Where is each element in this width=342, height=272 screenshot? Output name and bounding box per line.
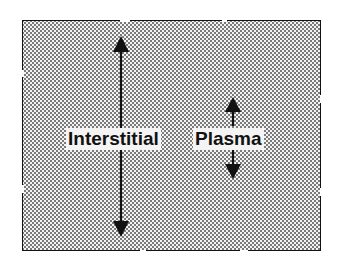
plasma-down-arrow-icon (225, 149, 241, 179)
plasma-up-arrow-icon (225, 97, 241, 126)
interstitial-label: Interstitial (66, 128, 161, 150)
plasma-label: Plasma (193, 128, 264, 150)
arrows-layer (0, 0, 342, 272)
